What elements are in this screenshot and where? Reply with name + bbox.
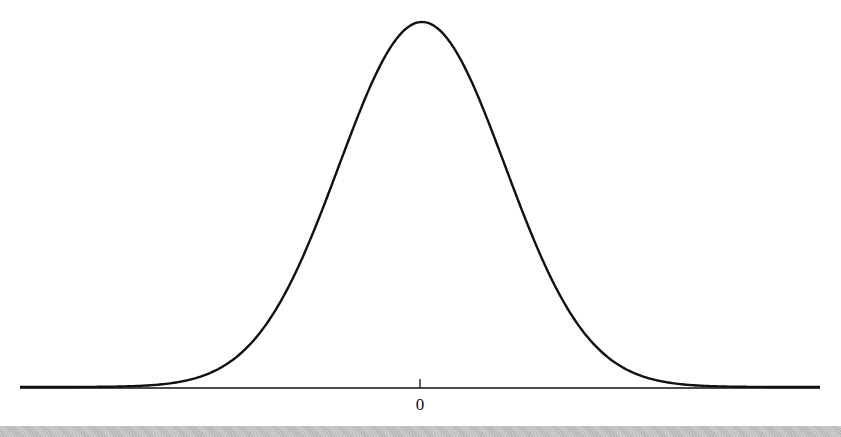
bell-curve-line	[20, 22, 820, 387]
bottom-gray-band	[0, 426, 841, 437]
normal-curve-chart	[0, 0, 841, 437]
x-tick-label-zero: 0	[416, 395, 425, 415]
